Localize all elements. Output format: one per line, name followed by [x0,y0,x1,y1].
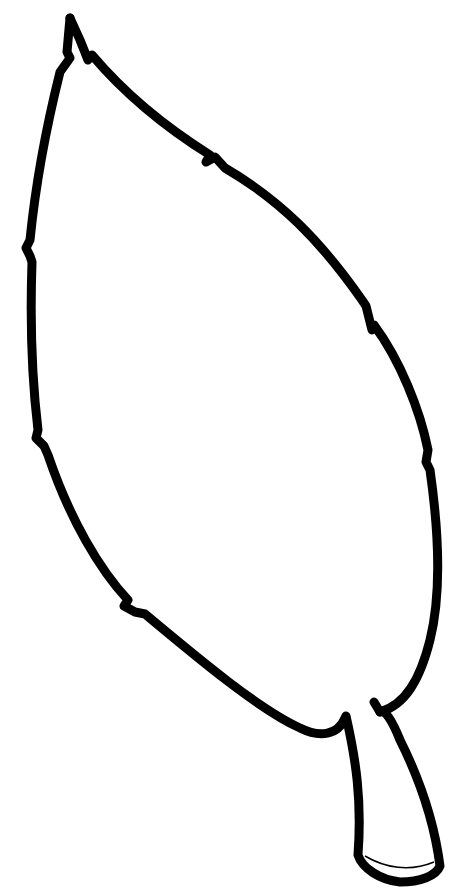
leaf-icon [26,18,440,882]
leaf-outline-drawing [0,0,454,891]
leaf-left-edge [26,18,345,734]
leaf-stem [346,711,440,882]
stem-highlight [365,856,434,868]
